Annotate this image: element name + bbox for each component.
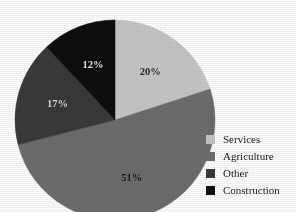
legend-swatch-icon <box>206 186 215 195</box>
legend-item-construction[interactable]: Construction <box>206 182 296 199</box>
legend-swatch-icon <box>206 169 215 178</box>
legend-item-label: Agriculture <box>223 151 274 162</box>
pie-value-label-agriculture: 51% <box>121 172 142 183</box>
legend-item-services[interactable]: Services <box>206 131 296 148</box>
legend-item-label: Services <box>223 134 260 145</box>
pie-value-label-construction: 12% <box>82 59 103 70</box>
pie-slices-group <box>15 20 215 212</box>
legend-item-other[interactable]: Other <box>206 165 296 182</box>
legend-item-agriculture[interactable]: Agriculture <box>206 148 296 165</box>
legend-swatch-icon <box>206 152 215 161</box>
pie-value-label-services: 20% <box>140 66 161 77</box>
legend-swatch-icon <box>206 135 215 144</box>
pie-value-label-other: 17% <box>47 98 68 109</box>
chart-legend: ServicesAgricultureOtherConstruction <box>206 131 296 199</box>
pie-chart-figure: 20%51%17%12% ServicesAgricultureOtherCon… <box>0 0 296 212</box>
legend-item-label: Other <box>223 168 248 179</box>
legend-item-label: Construction <box>223 185 280 196</box>
